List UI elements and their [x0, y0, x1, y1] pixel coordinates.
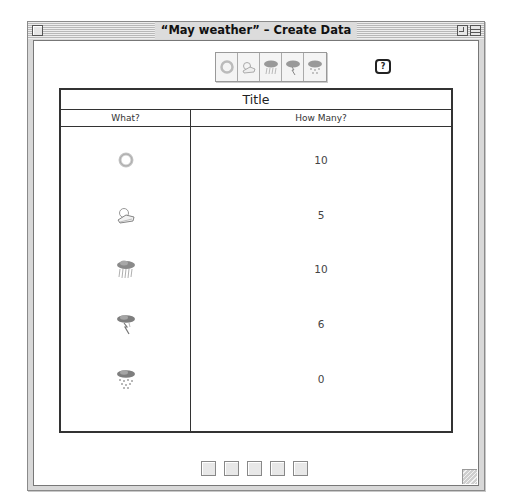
resize-grip[interactable] [462, 469, 477, 484]
table-view-icon[interactable] [201, 461, 216, 476]
rain-icon [115, 258, 137, 280]
what-cell [61, 254, 190, 284]
table-row: 10 [61, 145, 451, 175]
title-bar[interactable]: “May weather” – Create Data [28, 22, 484, 39]
pie-view-icon[interactable] [270, 461, 285, 476]
rain-icon [262, 58, 280, 76]
snow-icon [115, 368, 137, 390]
weather-stamp-toolbar [215, 52, 327, 82]
sun-icon [218, 58, 236, 76]
tool-thunderstorm[interactable] [282, 53, 304, 81]
tool-sun[interactable] [216, 53, 238, 81]
what-cell [61, 364, 190, 394]
how-many-cell[interactable]: 10 [191, 145, 451, 175]
how-many-cell[interactable]: 10 [191, 254, 451, 284]
collapse-box-button[interactable] [470, 25, 481, 36]
picture-graph-icon[interactable] [224, 461, 239, 476]
how-many-cell[interactable]: 5 [191, 200, 451, 230]
window-content: ? Title What? How Many? 10 [33, 40, 479, 486]
what-cell [61, 145, 190, 175]
zoom-box-button[interactable] [457, 25, 468, 36]
data-view-icon[interactable] [293, 461, 308, 476]
close-box-button[interactable] [32, 25, 43, 36]
help-balloon-button[interactable]: ? [375, 59, 391, 74]
thunderstorm-icon [115, 313, 137, 335]
what-cell [61, 200, 190, 230]
create-data-window: “May weather” – Create Data ? Title [27, 21, 485, 491]
table-row: 10 [61, 254, 451, 284]
table-header-row: What? How Many? [61, 110, 451, 127]
data-table: Title What? How Many? 10 5 [59, 88, 453, 433]
table-row: 0 [61, 364, 451, 394]
header-what: What? [61, 110, 190, 126]
tool-snow[interactable] [304, 53, 326, 81]
tool-partly-cloudy[interactable] [238, 53, 260, 81]
partly-cloudy-icon [240, 58, 258, 76]
window-title: “May weather” – Create Data [155, 22, 357, 39]
table-row: 6 [61, 309, 451, 339]
snow-icon [306, 58, 324, 76]
how-many-cell[interactable]: 0 [191, 364, 451, 394]
tool-rain[interactable] [260, 53, 282, 81]
thunderstorm-icon [284, 58, 302, 76]
what-cell [61, 309, 190, 339]
bar-graph-icon[interactable] [247, 461, 262, 476]
sun-icon [115, 149, 137, 171]
how-many-cell[interactable]: 6 [191, 309, 451, 339]
table-title[interactable]: Title [61, 90, 451, 110]
header-how-many: How Many? [191, 110, 451, 126]
partly-cloudy-icon [115, 204, 137, 226]
table-row: 5 [61, 200, 451, 230]
view-switcher [201, 461, 308, 476]
